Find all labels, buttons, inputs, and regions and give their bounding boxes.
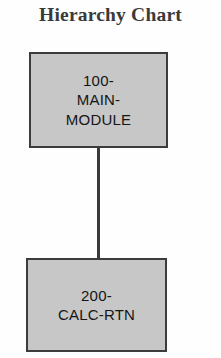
page-title: Hierarchy Chart bbox=[0, 4, 221, 26]
node-main-module[interactable]: 100- MAIN- MODULE bbox=[29, 52, 168, 148]
hierarchy-chart: Hierarchy Chart 100- MAIN- MODULE 200- C… bbox=[0, 0, 221, 358]
node-calc-rtn-label: 200- CALC-RTN bbox=[56, 286, 137, 324]
node-main-module-label: 100- MAIN- MODULE bbox=[64, 71, 133, 129]
connector-main-to-calc bbox=[97, 147, 100, 259]
node-calc-rtn[interactable]: 200- CALC-RTN bbox=[26, 258, 167, 352]
